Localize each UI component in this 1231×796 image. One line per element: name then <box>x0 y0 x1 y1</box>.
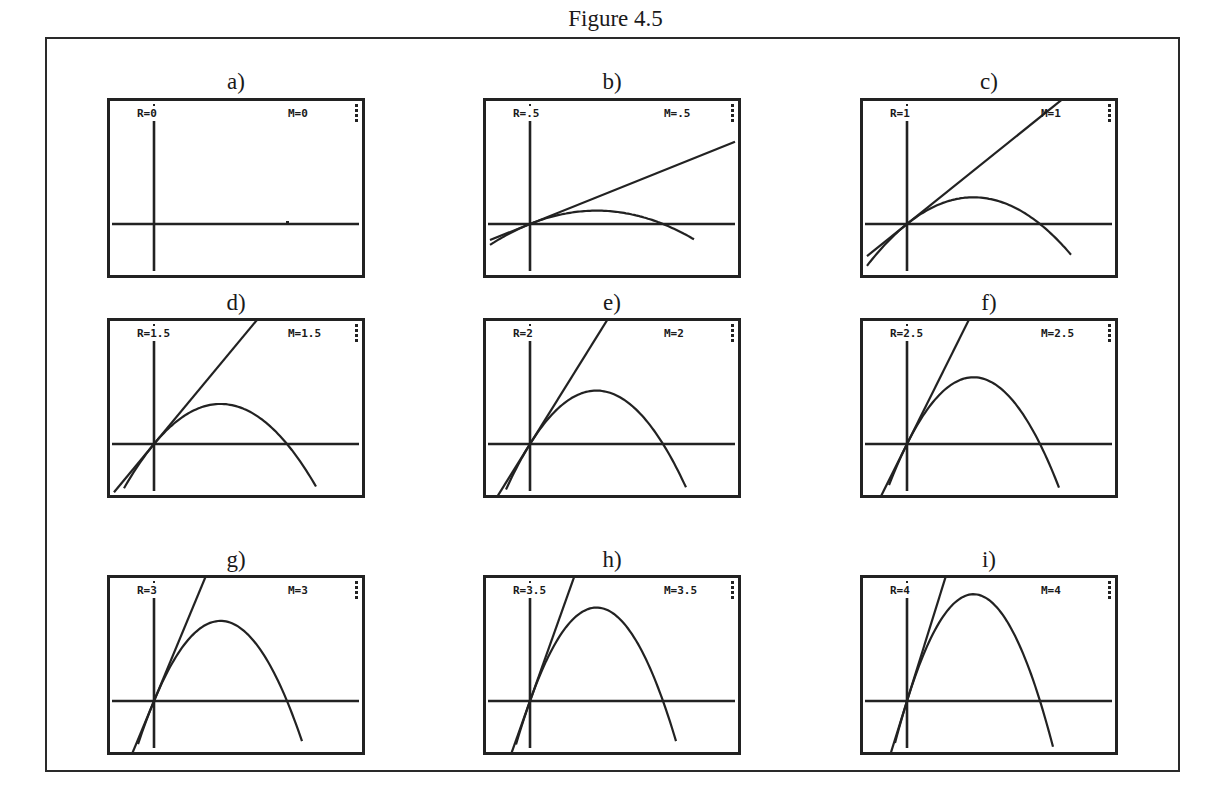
r-value-label: R=3 <box>137 584 157 597</box>
tangent-line <box>490 321 735 495</box>
panel-label-d: d) <box>107 291 365 315</box>
m-value-label: M=.5 <box>664 107 691 120</box>
axis-tick-mark <box>529 581 531 583</box>
panel-label-a: a) <box>107 70 365 94</box>
axis-tick-mark <box>906 104 908 106</box>
busy-indicator-icon <box>731 324 734 344</box>
r-value-label: R=3.5 <box>513 584 546 597</box>
m-value-label: M=3.5 <box>664 584 697 597</box>
r-value-label: R=.5 <box>513 107 540 120</box>
figure-title: Figure 4.5 <box>0 6 1231 32</box>
calc-screen-h: R=3.5 M=3.5 <box>483 575 741 755</box>
axis-tick-mark <box>153 104 155 106</box>
m-value-label: M=1 <box>1041 107 1061 120</box>
graph-plot <box>486 578 738 752</box>
m-value-label: M=2 <box>664 327 684 340</box>
calc-screen-g: R=3 M=3 <box>107 575 365 755</box>
axis-tick-mark <box>529 104 531 106</box>
r-value-label: R=4 <box>890 584 910 597</box>
cursor-dot <box>286 221 289 224</box>
m-value-label: M=4 <box>1041 584 1061 597</box>
axis-tick-mark <box>153 324 155 326</box>
calc-screen-b: R=.5 M=.5 <box>483 98 741 278</box>
calc-screen-d: R=1.5 M=1.5 <box>107 318 365 498</box>
calc-screen-c: R=1 M=1 <box>860 98 1118 278</box>
calc-screen-i: R=4 M=4 <box>860 575 1118 755</box>
graph-plot <box>110 578 362 752</box>
graph-plot <box>863 578 1115 752</box>
m-value-label: M=3 <box>288 584 308 597</box>
axis-tick-mark <box>906 581 908 583</box>
calc-screen-e: R=2 M=2 <box>483 318 741 498</box>
graph-plot <box>863 321 1115 495</box>
parabola-curve <box>889 377 1059 487</box>
panel-label-i: i) <box>860 548 1118 572</box>
tangent-line <box>490 578 735 752</box>
tangent-line <box>114 578 359 752</box>
axis-tick-mark <box>153 581 155 583</box>
panel-label-f: f) <box>860 291 1118 315</box>
panel-label-g: g) <box>107 548 365 572</box>
axis-tick-mark <box>529 324 531 326</box>
graph-plot <box>110 101 362 275</box>
parabola-curve <box>895 594 1053 747</box>
graph-plot <box>486 321 738 495</box>
busy-indicator-icon <box>1108 104 1111 124</box>
r-value-label: R=2 <box>513 327 533 340</box>
busy-indicator-icon <box>731 581 734 601</box>
tangent-line <box>867 101 1112 256</box>
calc-screen-a: R=0 M=0 <box>107 98 365 278</box>
r-value-label: R=1.5 <box>137 327 170 340</box>
r-value-label: R=0 <box>137 107 157 120</box>
r-value-label: R=1 <box>890 107 910 120</box>
busy-indicator-icon <box>731 104 734 124</box>
m-value-label: M=2.5 <box>1041 327 1074 340</box>
panel-label-e: e) <box>483 291 741 315</box>
busy-indicator-icon <box>1108 581 1111 601</box>
graph-plot <box>110 321 362 495</box>
calc-screen-f: R=2.5 M=2.5 <box>860 318 1118 498</box>
panel-label-b: b) <box>483 70 741 94</box>
axis-tick-mark <box>906 324 908 326</box>
tangent-line <box>867 578 1112 752</box>
graph-plot <box>863 101 1115 275</box>
m-value-label: M=0 <box>288 107 308 120</box>
tangent-line <box>867 321 1112 495</box>
busy-indicator-icon <box>1108 324 1111 344</box>
tangent-line <box>490 142 735 240</box>
r-value-label: R=2.5 <box>890 327 923 340</box>
m-value-label: M=1.5 <box>288 327 321 340</box>
panel-label-c: c) <box>860 70 1118 94</box>
busy-indicator-icon <box>355 324 358 344</box>
busy-indicator-icon <box>355 581 358 601</box>
panel-label-h: h) <box>483 548 741 572</box>
graph-plot <box>486 101 738 275</box>
busy-indicator-icon <box>355 104 358 124</box>
